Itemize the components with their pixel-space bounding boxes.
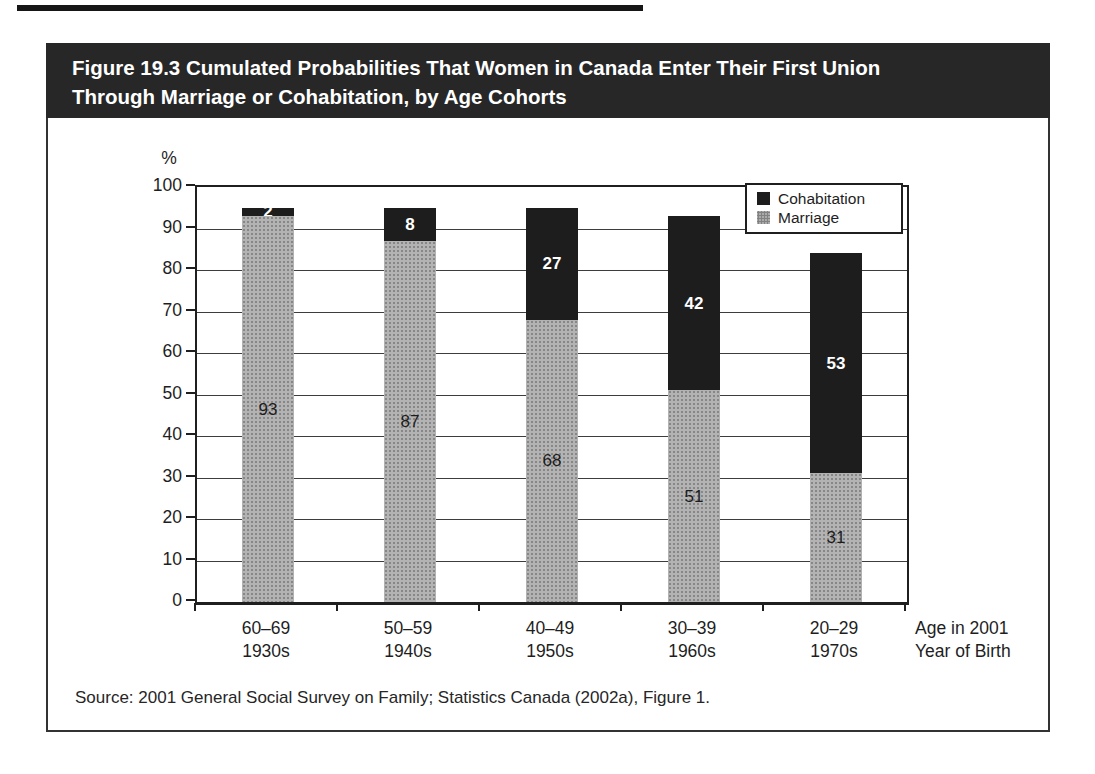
- figure-box: Figure 19.3 Cumulated Probabilities That…: [46, 43, 1050, 732]
- y-axis-label: 70: [132, 299, 182, 321]
- source-note: Source: 2001 General Social Survey on Fa…: [75, 688, 710, 708]
- y-axis-label: 100: [132, 174, 182, 196]
- y-axis-tick: [186, 350, 195, 352]
- x-axis-note: Age in 2001 Year of Birth: [915, 617, 1011, 663]
- x-axis-tick: [762, 603, 764, 611]
- y-axis-tick: [186, 475, 195, 477]
- bar-value-label: 31: [827, 529, 846, 546]
- figure-title-banner: Figure 19.3 Cumulated Probabilities That…: [46, 43, 1050, 118]
- legend-swatch-marriage-icon: [757, 211, 770, 224]
- category-label: 40–491950s: [495, 617, 605, 663]
- y-axis-tick: [186, 392, 195, 394]
- bar-value-label: 93: [259, 401, 278, 418]
- y-axis-label: 10: [132, 548, 182, 570]
- bar-value-label: 51: [685, 488, 704, 505]
- bar-40-49: 2768: [526, 208, 578, 602]
- category-birth-cohort: 1940s: [353, 640, 463, 663]
- category-label: 60–691930s: [211, 617, 321, 663]
- legend-row-cohabitation: Cohabitation: [757, 189, 895, 208]
- x-axis-note-line1: Age in 2001: [915, 617, 1011, 640]
- figure-title-line2: Through Marriage or Cohabitation, by Age…: [72, 82, 1032, 111]
- legend-row-marriage: Marriage: [757, 208, 895, 227]
- bar-segment-cohabitation: 53: [810, 253, 862, 473]
- bar-value-label: 53: [827, 355, 846, 372]
- bar-value-label: 68: [543, 452, 562, 469]
- y-axis-label: 20: [132, 506, 182, 528]
- bar-value-label: 87: [401, 413, 420, 430]
- y-axis-tick: [186, 309, 195, 311]
- plot-area: 293887276842515331: [195, 185, 909, 605]
- y-axis-label: 0: [132, 589, 182, 611]
- legend-label-cohabitation: Cohabitation: [778, 189, 865, 208]
- category-age-range: 30–39: [637, 617, 747, 640]
- bar-segment-marriage: 68: [526, 320, 578, 602]
- x-axis-tick: [194, 603, 196, 611]
- bar-30-39: 4251: [668, 216, 720, 602]
- x-axis-note-line2: Year of Birth: [915, 640, 1011, 663]
- x-axis-tick: [336, 603, 338, 611]
- category-label: 30–391960s: [637, 617, 747, 663]
- y-axis-label: 90: [132, 216, 182, 238]
- y-axis-label: 50: [132, 382, 182, 404]
- x-axis-tick: [620, 603, 622, 611]
- category-birth-cohort: 1960s: [637, 640, 747, 663]
- category-birth-cohort: 1930s: [211, 640, 321, 663]
- category-birth-cohort: 1950s: [495, 640, 605, 663]
- y-axis-label: 40: [132, 423, 182, 445]
- category-age-range: 60–69: [211, 617, 321, 640]
- bar-50-59: 887: [384, 208, 436, 602]
- bar-20-29: 5331: [810, 253, 862, 602]
- y-axis-tick: [186, 599, 195, 601]
- percent-axis-label: %: [152, 148, 186, 169]
- figure-title-line1: Figure 19.3 Cumulated Probabilities That…: [72, 53, 1032, 82]
- legend: Cohabitation Marriage: [745, 183, 903, 234]
- y-axis-tick: [186, 433, 195, 435]
- legend-swatch-cohabitation-icon: [757, 192, 770, 205]
- category-age-range: 40–49: [495, 617, 605, 640]
- bar-value-label: 27: [543, 255, 562, 272]
- bar-segment-cohabitation: 8: [384, 208, 436, 241]
- y-axis-label: 30: [132, 465, 182, 487]
- bar-segment-cohabitation: 2: [242, 208, 294, 216]
- bar-segment-cohabitation: 27: [526, 208, 578, 320]
- y-axis-tick: [186, 558, 195, 560]
- category-label: 20–291970s: [779, 617, 889, 663]
- y-axis-tick: [186, 226, 195, 228]
- bar-value-label: 42: [685, 295, 704, 312]
- y-axis-tick: [186, 267, 195, 269]
- bar-segment-marriage: 51: [668, 390, 720, 602]
- bar-segment-marriage: 93: [242, 216, 294, 602]
- y-axis-label: 80: [132, 257, 182, 279]
- y-axis-label: 60: [132, 340, 182, 362]
- x-axis-tick: [478, 603, 480, 611]
- bar-segment-cohabitation: 42: [668, 216, 720, 390]
- legend-label-marriage: Marriage: [778, 208, 839, 227]
- category-age-range: 20–29: [779, 617, 889, 640]
- x-axis-tick: [904, 603, 906, 611]
- scan-artifact-rule: [17, 5, 643, 11]
- category-label: 50–591940s: [353, 617, 463, 663]
- y-axis-tick: [186, 516, 195, 518]
- bar-segment-marriage: 87: [384, 241, 436, 602]
- category-age-range: 50–59: [353, 617, 463, 640]
- y-axis-tick: [186, 184, 195, 186]
- bar-60-69: 293: [242, 208, 294, 602]
- bar-value-label: 8: [405, 216, 414, 233]
- category-birth-cohort: 1970s: [779, 640, 889, 663]
- bar-segment-marriage: 31: [810, 473, 862, 602]
